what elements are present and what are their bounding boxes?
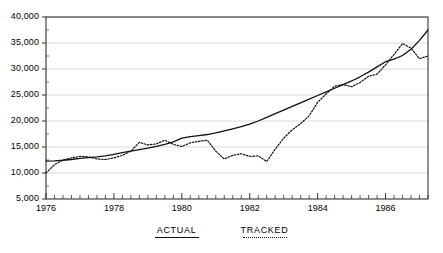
line-chart: 5,00010,00015,00020,00025,00030,00035,00…: [0, 0, 443, 253]
x-axis-tick-label: 1980: [162, 203, 202, 213]
x-axis-tick-label: 1978: [94, 203, 134, 213]
legend-swatch-dashed-line-icon: [243, 237, 287, 242]
y-axis-tick-label: 25,000: [0, 89, 39, 99]
y-axis-tick-label: 30,000: [0, 63, 39, 73]
legend-label-actual: ACTUAL: [157, 225, 197, 235]
series-line-tracked: [46, 44, 428, 173]
series-line-actual: [46, 30, 428, 161]
y-axis-tick-label: 5,000: [0, 193, 39, 203]
plot-area: [0, 0, 443, 253]
chart-legend: ACTUAL TRACKED: [0, 225, 443, 242]
legend-swatch-solid-line-icon: [155, 237, 199, 242]
x-axis-tick-label: 1984: [298, 203, 338, 213]
x-axis-tick-label: 1986: [366, 203, 406, 213]
y-axis-tick-label: 15,000: [0, 141, 39, 151]
legend-item-actual: ACTUAL: [155, 225, 199, 242]
y-axis-tick-label: 10,000: [0, 167, 39, 177]
y-axis-tick-label: 35,000: [0, 37, 39, 47]
y-axis-tick-label: 40,000: [0, 11, 39, 21]
legend-label-tracked: TRACKED: [241, 225, 289, 235]
plot-frame: [46, 17, 428, 199]
legend-item-tracked: TRACKED: [241, 225, 289, 242]
x-axis-tick-label: 1982: [230, 203, 270, 213]
x-axis-tick-label: 1976: [26, 203, 66, 213]
y-axis-tick-label: 20,000: [0, 115, 39, 125]
